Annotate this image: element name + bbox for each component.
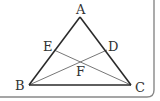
label-b: B <box>15 78 25 93</box>
label-c: C <box>135 80 145 95</box>
side-ac <box>80 17 131 85</box>
label-e: E <box>43 39 53 54</box>
label-a: A <box>75 2 86 17</box>
triangle-diagram: A B C D E F <box>0 0 160 101</box>
side-ab <box>29 17 80 85</box>
segment-ce <box>54 50 131 85</box>
label-d: D <box>108 39 118 54</box>
diagram-frame: A B C D E F <box>0 0 160 101</box>
segment-be <box>29 50 107 85</box>
label-f: F <box>76 64 85 79</box>
